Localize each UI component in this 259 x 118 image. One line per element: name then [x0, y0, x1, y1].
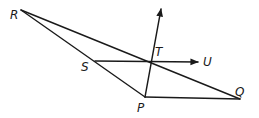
label-p: P — [137, 101, 145, 115]
label-t: T — [155, 45, 164, 59]
label-u: U — [203, 55, 212, 69]
label-r: R — [10, 8, 18, 22]
segment-pq — [145, 97, 240, 99]
ray-su — [95, 61, 198, 62]
label-q: Q — [235, 85, 244, 99]
geometry-diagram: R S T U P Q — [0, 0, 259, 118]
label-s: S — [81, 60, 89, 74]
